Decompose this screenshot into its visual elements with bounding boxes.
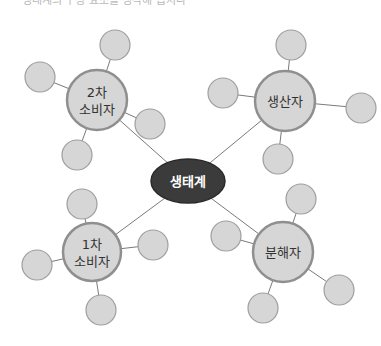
- empty-satellite-circle: [208, 78, 238, 108]
- node-producer: 생산자: [255, 71, 315, 131]
- empty-satellite-circle: [286, 184, 316, 214]
- node-label-line2: 소비자: [74, 254, 110, 269]
- node-circle: [63, 223, 121, 281]
- empty-satellite-circle: [22, 250, 52, 280]
- center-label: 생태계: [170, 174, 206, 189]
- empty-satellite-circle: [62, 140, 92, 170]
- diagram-canvas: 생태계의 구성 요소를 생각해 봅시다 2차소비자생산자1차소비자분해자 생태계: [0, 0, 381, 346]
- empty-satellite-circle: [100, 30, 130, 60]
- empty-satellite-circle: [67, 189, 97, 219]
- node-circle: [67, 70, 127, 130]
- empty-satellite-circle: [263, 144, 293, 174]
- node-label-line2: 소비자: [79, 102, 115, 117]
- node-label-line1: 1차: [82, 237, 102, 252]
- ecosystem-diagram: 생태계의 구성 요소를 생각해 봅시다 2차소비자생산자1차소비자분해자 생태계: [0, 0, 381, 346]
- empty-satellite-circle: [138, 230, 168, 260]
- node-label: 생산자: [267, 94, 303, 109]
- top-caption: 생태계의 구성 요소를 생각해 봅시다: [22, 0, 186, 7]
- empty-satellite-circle: [135, 109, 165, 139]
- node-secondary-consumer: 2차소비자: [67, 70, 127, 130]
- node-primary-consumer: 1차소비자: [63, 223, 121, 281]
- node-label: 분해자: [265, 245, 301, 260]
- empty-satellite-circle: [86, 295, 116, 325]
- node-decomposer: 분해자: [253, 222, 313, 282]
- empty-satellite-circle: [211, 221, 241, 251]
- node-label-line1: 2차: [87, 85, 107, 100]
- empty-satellite-circle: [25, 62, 55, 92]
- empty-satellite-circle: [276, 30, 306, 60]
- empty-satellite-circle: [248, 293, 278, 323]
- empty-satellite-circle: [324, 275, 354, 305]
- empty-satellite-circle: [346, 93, 376, 123]
- center-node: 생태계: [151, 159, 225, 203]
